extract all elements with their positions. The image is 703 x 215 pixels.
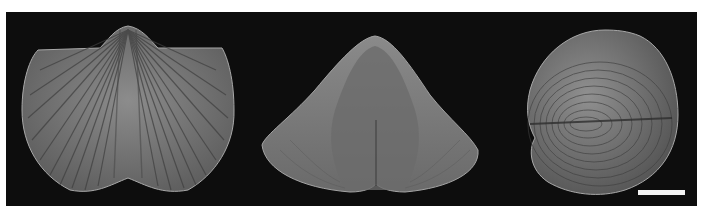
scale-bar bbox=[638, 190, 685, 195]
specimen-anterior-view bbox=[262, 36, 478, 192]
specimen-dorsal-view bbox=[22, 26, 234, 191]
specimen-lateral-view bbox=[528, 30, 678, 194]
specimen-illustrations bbox=[0, 0, 703, 215]
